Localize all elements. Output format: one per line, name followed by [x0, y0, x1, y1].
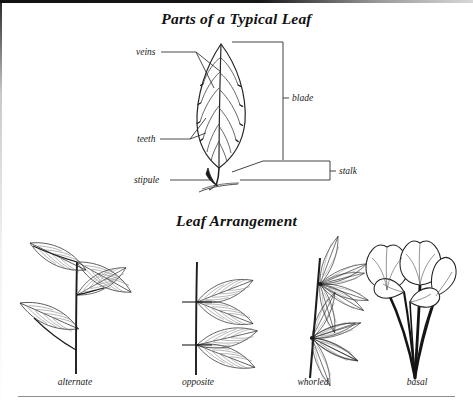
leaf-stalk-petiole: [216, 168, 219, 186]
opposite-stem: [196, 262, 197, 375]
figure-page: Parts of a Typical Leaf Leaf Arrangement: [0, 0, 473, 413]
label-opposite: opposite: [143, 377, 253, 387]
label-stipule: stipule: [134, 175, 159, 185]
whorled-arrangement-illustration: [307, 235, 370, 388]
whorled-stem: [310, 258, 320, 378]
label-whorled: whorled: [258, 377, 368, 387]
basal-leaf-blades: [366, 241, 456, 307]
whorl-node-upper: [315, 235, 370, 334]
page-bottom-rule: [18, 396, 455, 397]
label-basal: basal: [362, 377, 472, 387]
leaf-diagram-artwork: [0, 0, 473, 413]
label-stalk: stalk: [339, 166, 357, 176]
stalk-bracket: [232, 161, 336, 180]
label-teeth: teeth: [137, 134, 155, 144]
alternate-arrangement-illustration: [16, 235, 135, 374]
opposite-arrangement-illustration: [182, 262, 259, 375]
typical-leaf-illustration: [160, 42, 336, 192]
label-veins: veins: [136, 47, 156, 57]
label-alternate: alternate: [20, 377, 130, 387]
label-blade: blade: [292, 93, 313, 103]
basal-arrangement-illustration: [366, 241, 456, 378]
alternate-stem: [76, 262, 77, 374]
